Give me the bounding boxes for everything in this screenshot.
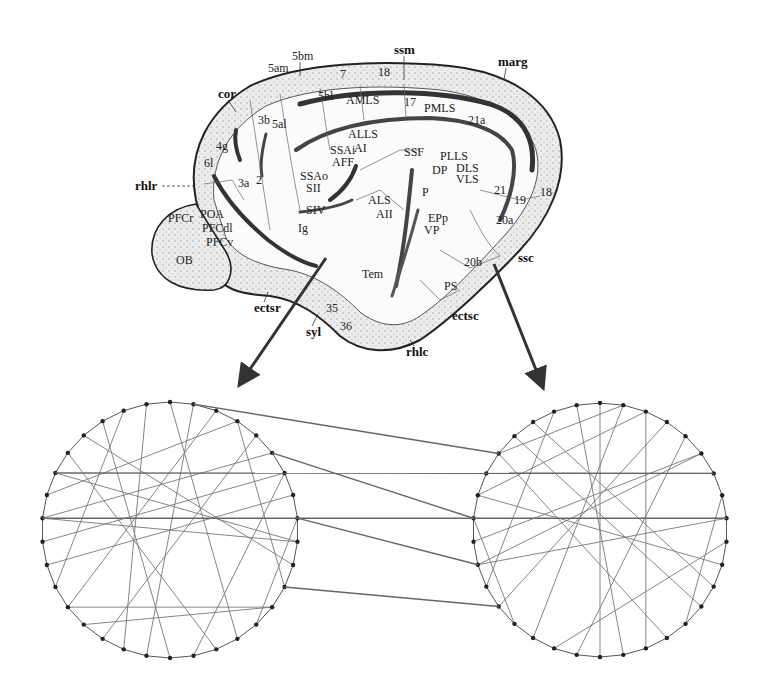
ring-edge	[68, 607, 84, 624]
shortcut-edge	[486, 412, 554, 587]
ring-edge	[514, 624, 533, 638]
ring-edge	[714, 565, 722, 587]
area-label: OB	[176, 253, 193, 267]
network-node	[45, 493, 49, 497]
network-node	[644, 409, 648, 413]
network-node	[45, 563, 49, 567]
area-label: 7	[340, 67, 346, 81]
network-node	[235, 637, 239, 641]
ring-edge	[667, 624, 686, 638]
ring-edge	[216, 639, 237, 650]
ring-edge	[124, 404, 147, 410]
area-label: SSF	[404, 145, 424, 159]
network-node	[512, 622, 516, 626]
ring-edge	[646, 638, 667, 648]
label-5am: 5am	[268, 61, 289, 75]
ring-edge	[667, 422, 686, 436]
ring-edge	[701, 587, 713, 607]
network-node	[598, 655, 602, 659]
ring-edge	[216, 411, 237, 422]
ring-edge	[623, 648, 646, 654]
area-label: ALLS	[348, 127, 378, 141]
inter-module-edge	[297, 518, 477, 565]
ring-edge	[486, 453, 498, 473]
ring-edge	[714, 473, 722, 495]
network-node	[295, 540, 299, 544]
ring-edge	[84, 625, 103, 639]
ring-edge	[646, 412, 667, 422]
area-label: 36	[340, 319, 352, 333]
network-node	[471, 540, 475, 544]
ring-edge	[194, 649, 217, 655]
network-node	[683, 622, 687, 626]
network-node	[214, 647, 218, 651]
shortcut-edge	[554, 542, 726, 649]
area-label: 3a	[238, 176, 250, 190]
right-network-graph	[471, 401, 728, 659]
network-node	[720, 493, 724, 497]
network-node	[100, 419, 104, 423]
network-node	[66, 605, 70, 609]
network-node	[711, 584, 715, 588]
area-label: DP	[432, 163, 448, 177]
area-label: SII	[306, 181, 321, 195]
network-node	[40, 540, 44, 544]
ring-edge	[474, 495, 478, 518]
network-node	[683, 434, 687, 438]
area-label: Tem	[362, 267, 384, 281]
arrow-to-right-network	[494, 264, 540, 380]
ring-edge	[256, 435, 272, 452]
area-label: PS	[444, 279, 457, 293]
area-label: VP	[424, 223, 440, 237]
ring-edge	[146, 402, 170, 404]
network-node	[621, 403, 625, 407]
ring-edge	[47, 473, 56, 495]
shortcut-edge	[43, 453, 273, 518]
network-node	[621, 653, 625, 657]
area-label: 20b	[464, 255, 482, 269]
network-node	[254, 433, 258, 437]
ring-edge	[293, 542, 297, 565]
ring-edge	[554, 405, 577, 411]
area-label: SIV	[306, 203, 326, 217]
area-label: PFCdl	[202, 221, 233, 235]
ring-edge	[43, 495, 47, 518]
left-network-graph	[40, 400, 299, 660]
ring-edge	[55, 453, 67, 473]
brain-network-figure: cor 5am 5bm ssm marg rhlr ectsr syl rhlc…	[0, 0, 768, 693]
inter-module-edge	[285, 587, 499, 606]
ring-edge	[722, 495, 726, 518]
shortcut-edge	[533, 405, 623, 638]
ring-edge	[600, 403, 623, 405]
shortcut-edge	[478, 453, 702, 564]
shortcut-edge	[47, 421, 237, 495]
ring-edge	[486, 587, 498, 607]
ring-edge	[722, 542, 726, 565]
area-label: AMLS	[346, 93, 379, 107]
shortcut-edge	[499, 453, 667, 638]
area-label: 19	[514, 193, 526, 207]
ring-edge	[554, 648, 577, 654]
network-node	[574, 403, 578, 407]
network-node	[235, 419, 239, 423]
area-label: PFCr	[168, 211, 193, 225]
ring-edge	[474, 542, 478, 565]
shortcut-edge	[68, 453, 216, 649]
shortcut-edge	[103, 421, 170, 658]
area-label: 5al	[272, 117, 287, 131]
shortcut-edge	[84, 607, 272, 624]
shortcut-edge	[478, 412, 646, 496]
area-label: Ig	[298, 221, 308, 235]
label-ectsc: ectsc	[452, 308, 479, 323]
shortcut-edge	[43, 518, 298, 542]
ring-edge	[293, 495, 297, 518]
network-node	[291, 493, 295, 497]
label-cor: cor	[218, 86, 236, 101]
network-node	[724, 540, 728, 544]
network-node	[122, 647, 126, 651]
shortcut-edge	[499, 405, 624, 453]
network-node	[699, 451, 703, 455]
network-node	[168, 656, 172, 660]
network-node	[552, 646, 556, 650]
network-node	[100, 637, 104, 641]
